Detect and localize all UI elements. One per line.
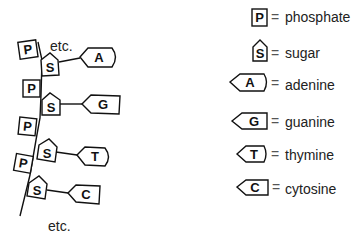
legend-guanine-label: guanine bbox=[285, 114, 335, 130]
base-1-label: A bbox=[94, 50, 104, 65]
legend-equals: = bbox=[271, 45, 279, 61]
legend-sugar-symbol-label: S bbox=[256, 46, 265, 61]
legend: P = phosphate S = sugar A = adenine G = … bbox=[230, 9, 351, 197]
legend-equals: = bbox=[271, 113, 279, 129]
nucleotide-2: P S G bbox=[23, 80, 120, 115]
base-thymine-3: T bbox=[77, 147, 109, 166]
legend-phosphate-symbol-label: P bbox=[255, 10, 264, 25]
sugar-1: S bbox=[41, 53, 59, 76]
phosphate-4: P bbox=[14, 154, 34, 174]
legend-equals: = bbox=[271, 75, 279, 91]
legend-item-cytosine: C = cytosine bbox=[237, 179, 337, 197]
legend-equals: = bbox=[271, 9, 279, 25]
sugar-4: S bbox=[27, 176, 47, 199]
sugar-2-label: S bbox=[47, 100, 56, 115]
base-3-label: T bbox=[91, 149, 99, 164]
legend-item-adenine: A = adenine bbox=[230, 74, 335, 93]
glycosidic-bond-3 bbox=[56, 152, 77, 155]
legend-equals: = bbox=[271, 146, 279, 162]
phosphate-1: P bbox=[18, 40, 38, 59]
base-4-label: C bbox=[81, 187, 91, 202]
legend-thymine-symbol-label: T bbox=[250, 147, 258, 162]
strand-top-etc-label: etc. bbox=[50, 38, 73, 54]
sugar-3-label: S bbox=[43, 146, 52, 161]
legend-guanine-symbol-label: G bbox=[249, 114, 259, 129]
legend-item-guanine: G = guanine bbox=[232, 113, 335, 130]
base-cytosine-4: C bbox=[68, 185, 100, 204]
legend-equals: = bbox=[272, 179, 280, 195]
phosphate-2-label: P bbox=[27, 81, 36, 96]
glycosidic-bond-4 bbox=[47, 190, 68, 193]
base-adenine-1: A bbox=[80, 48, 116, 67]
legend-sugar-label: sugar bbox=[285, 45, 320, 61]
legend-adenine-label: adenine bbox=[285, 77, 335, 93]
sugar-4-label: S bbox=[33, 183, 42, 198]
sugar-1-label: S bbox=[46, 60, 55, 75]
sugar-3: S bbox=[37, 139, 57, 162]
strand-bottom-etc-label: etc. bbox=[48, 218, 71, 234]
legend-cytosine-symbol-label: C bbox=[250, 180, 260, 195]
dna-strand-diagram: etc. etc. P S A P S G bbox=[0, 0, 358, 242]
legend-item-thymine: T = thymine bbox=[237, 146, 334, 163]
base-guanine-2: G bbox=[82, 95, 120, 114]
legend-cytosine-label: cytosine bbox=[285, 181, 337, 197]
legend-item-sugar: S = sugar bbox=[253, 40, 320, 61]
legend-thymine-label: thymine bbox=[285, 147, 334, 163]
legend-phosphate-label: phosphate bbox=[285, 9, 351, 25]
legend-item-phosphate: P = phosphate bbox=[252, 9, 351, 26]
glycosidic-bond-1 bbox=[59, 58, 80, 62]
legend-adenine-symbol-label: A bbox=[245, 75, 255, 90]
base-2-label: G bbox=[98, 97, 108, 112]
sugar-2: S bbox=[42, 93, 60, 115]
phosphate-3: P bbox=[18, 117, 37, 136]
